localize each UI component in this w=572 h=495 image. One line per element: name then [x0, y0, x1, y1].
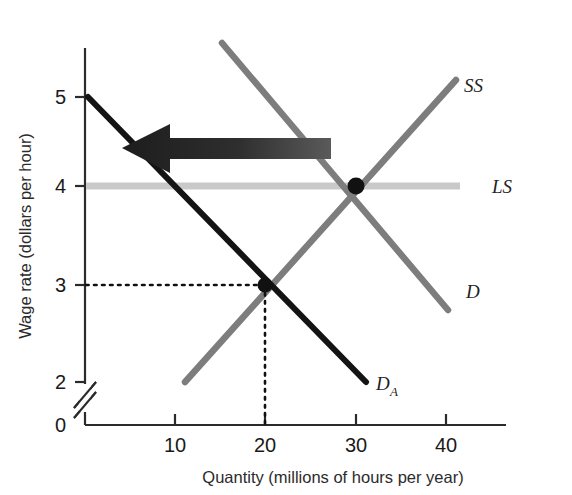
- x-tick-label-10: 10: [164, 434, 186, 456]
- x-tick-label-30: 30: [345, 434, 367, 456]
- y-origin-label: 0: [55, 414, 66, 436]
- y-tick-labels-group: 5 4 3 2 0: [55, 86, 66, 436]
- curve-label-da-group: D A: [375, 373, 398, 399]
- curve-label-d: D: [465, 281, 480, 302]
- x-tick-label-40: 40: [435, 434, 457, 456]
- curve-label-da: D: [375, 373, 390, 394]
- y-tick-label-5: 5: [55, 86, 66, 108]
- curve-label-ls: LS: [491, 176, 513, 197]
- equilibrium-point-new: [258, 278, 273, 293]
- curve-label-ss: SS: [464, 75, 484, 96]
- y-tick-label-4: 4: [55, 175, 66, 197]
- y-axis-title: Wage rate (dollars per hour): [16, 133, 34, 339]
- curve-label-da-subscript: A: [389, 384, 398, 399]
- chart-canvas: 5 4 3 2 0 10 20 30 40 Quantity (millions…: [0, 0, 572, 495]
- equilibrium-point-original: [348, 178, 365, 195]
- x-ticks-group: [175, 414, 446, 425]
- y-tick-label-2: 2: [55, 371, 66, 393]
- dotted-guides-group: [86, 285, 265, 425]
- y-tick-label-3: 3: [55, 274, 66, 296]
- axes-group: [85, 48, 506, 425]
- x-tick-label-20: 20: [254, 434, 276, 456]
- x-axis-title: Quantity (millions of hours per year): [202, 468, 463, 486]
- x-tick-labels-group: 10 20 30 40: [164, 434, 457, 456]
- economics-supply-demand-chart: 5 4 3 2 0 10 20 30 40 Quantity (millions…: [0, 0, 572, 495]
- y-ticks-group: [75, 97, 85, 382]
